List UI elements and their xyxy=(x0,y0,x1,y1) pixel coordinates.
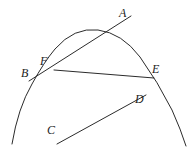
label-point-c: C xyxy=(47,124,55,136)
geometry-canvas xyxy=(0,0,194,152)
geometry-figure: A B C D E F xyxy=(0,0,194,152)
line-segment-c-d xyxy=(57,95,146,144)
parabola-curve xyxy=(12,30,186,146)
line-segment-b-a xyxy=(29,16,131,81)
label-point-f: F xyxy=(40,55,47,67)
label-point-d: D xyxy=(135,93,144,105)
label-point-e: E xyxy=(152,63,159,75)
line-segment-f-e xyxy=(54,70,154,78)
label-point-a: A xyxy=(119,7,126,19)
label-point-b: B xyxy=(21,67,28,79)
